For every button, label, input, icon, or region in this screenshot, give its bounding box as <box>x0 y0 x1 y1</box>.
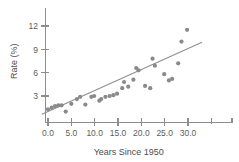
data-point <box>64 109 68 113</box>
data-point <box>162 72 166 76</box>
data-points-group <box>46 28 189 114</box>
data-point <box>153 64 157 68</box>
data-point <box>120 86 124 90</box>
data-point <box>170 77 174 81</box>
y-axis-tick-label: 3 <box>33 91 38 101</box>
x-axis-tick-label: 30.0 <box>180 128 197 138</box>
y-axis-tick-label: 9 <box>33 45 38 55</box>
data-point <box>185 28 189 32</box>
x-axis-tick-label: 5.0 <box>65 128 77 138</box>
x-axis-title: Years Since 1950 <box>94 147 164 157</box>
axis-labels-group: 369120.05.010.015.020.025.030.0Years Sin… <box>9 21 197 157</box>
data-point <box>176 61 180 65</box>
y-axis-tick-label: 12 <box>29 21 39 31</box>
data-point <box>103 95 107 99</box>
x-axis-tick-label: 15.0 <box>110 128 127 138</box>
data-point <box>99 97 103 101</box>
data-point <box>59 103 63 107</box>
data-point <box>143 84 147 88</box>
data-point <box>122 80 126 84</box>
scatter-plot-figure: 369120.05.010.015.020.025.030.0Years Sin… <box>0 0 239 162</box>
plot-canvas: 369120.05.010.015.020.025.030.0Years Sin… <box>0 0 239 162</box>
data-point <box>111 93 115 97</box>
data-point <box>69 102 73 106</box>
data-point <box>78 95 82 99</box>
y-axis-tick-label: 6 <box>33 68 38 78</box>
data-point <box>83 102 87 106</box>
regression-line <box>42 42 202 114</box>
x-axis-tick-label: 20.0 <box>133 128 150 138</box>
regression-line-group <box>42 42 202 114</box>
data-point <box>150 57 154 61</box>
data-point <box>92 94 96 98</box>
data-point <box>108 94 112 98</box>
x-axis-tick-label: 0.0 <box>42 128 54 138</box>
data-point <box>179 39 183 43</box>
data-point <box>46 107 50 111</box>
data-point <box>131 78 135 82</box>
data-point <box>148 86 152 90</box>
data-point <box>115 92 119 96</box>
x-axis-tick-label: 25.0 <box>156 128 173 138</box>
y-axis-title: Rate (%) <box>9 43 19 79</box>
data-point <box>126 85 130 89</box>
data-point <box>136 68 140 72</box>
x-axis-tick-label: 10.0 <box>86 128 103 138</box>
